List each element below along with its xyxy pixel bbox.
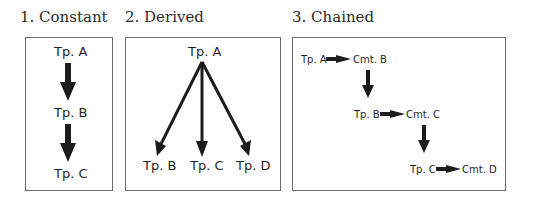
node-derived-root: Tp. A: [188, 44, 221, 59]
node-chained-comment-b: Cmt. B: [353, 54, 387, 65]
panel-title-constant: 1. Constant: [20, 8, 108, 26]
panel-title-chained: 3. Chained: [292, 8, 374, 26]
node-chained-comment-d: Cmt. D: [462, 164, 497, 175]
node-derived-tp-d: Tp. D: [236, 158, 270, 173]
node-constant-tp-a: Tp. A: [54, 44, 87, 59]
node-chained-topic-c: Tp. C: [410, 164, 436, 175]
node-constant-tp-b: Tp. B: [54, 105, 87, 120]
node-derived-tp-b: Tp. B: [143, 158, 176, 173]
node-chained-topic-a: Tp. A: [301, 54, 327, 65]
panel-title-derived: 2. Derived: [125, 8, 204, 26]
node-chained-comment-c: Cmt. C: [406, 109, 440, 120]
node-constant-tp-c: Tp. C: [54, 166, 88, 181]
node-chained-topic-b: Tp. B: [354, 109, 380, 120]
node-derived-tp-c: Tp. C: [190, 158, 224, 173]
